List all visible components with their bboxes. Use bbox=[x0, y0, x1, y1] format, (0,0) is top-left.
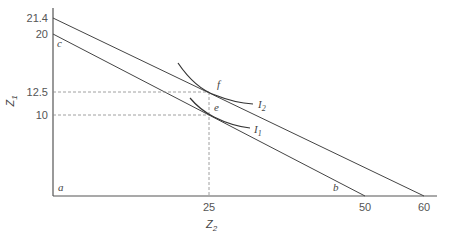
point-e-label: e bbox=[214, 101, 219, 113]
x-tick-60: 60 bbox=[418, 201, 430, 213]
y-tick-20: 20 bbox=[36, 28, 48, 40]
point-f-label: f bbox=[217, 78, 222, 90]
diagram-canvas: 21.4 20 12.5 10 25 50 60 Z1 Z2 a b c e f… bbox=[0, 0, 449, 242]
y-tick-10: 10 bbox=[36, 109, 48, 121]
point-b-label: b bbox=[333, 181, 339, 193]
budget-line-upper bbox=[53, 18, 424, 196]
y-axis-label: Z1 bbox=[4, 95, 19, 107]
x-tick-25: 25 bbox=[203, 201, 215, 213]
point-c-label: c bbox=[57, 37, 62, 49]
point-a-label: a bbox=[58, 181, 64, 193]
x-tick-50: 50 bbox=[359, 201, 371, 213]
y-tick-12-5: 12.5 bbox=[27, 86, 48, 98]
svg-text:Z1: Z1 bbox=[4, 95, 19, 107]
curve-i2-label: I2 bbox=[257, 98, 266, 113]
y-tick-21-4: 21.4 bbox=[27, 12, 48, 24]
x-axis-label: Z2 bbox=[205, 218, 218, 233]
curve-i1-label: I1 bbox=[253, 123, 262, 138]
